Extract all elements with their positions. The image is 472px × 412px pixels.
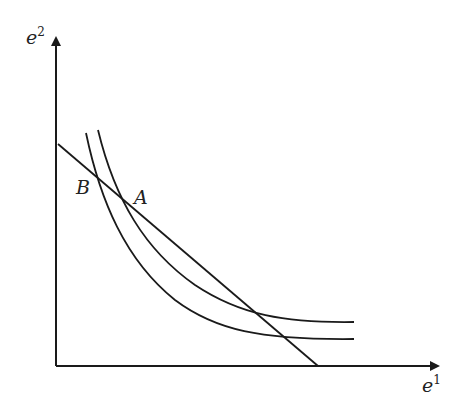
x-axis-label: e1 [422,373,441,396]
point-label-b: B [75,176,90,198]
y-axis-label: e2 [26,25,45,48]
indifference-curve-lower [86,133,354,339]
diagram-canvas: e2 e1 B A [0,0,472,412]
indifference-curve-upper [98,130,354,322]
point-label-a: A [132,186,148,208]
